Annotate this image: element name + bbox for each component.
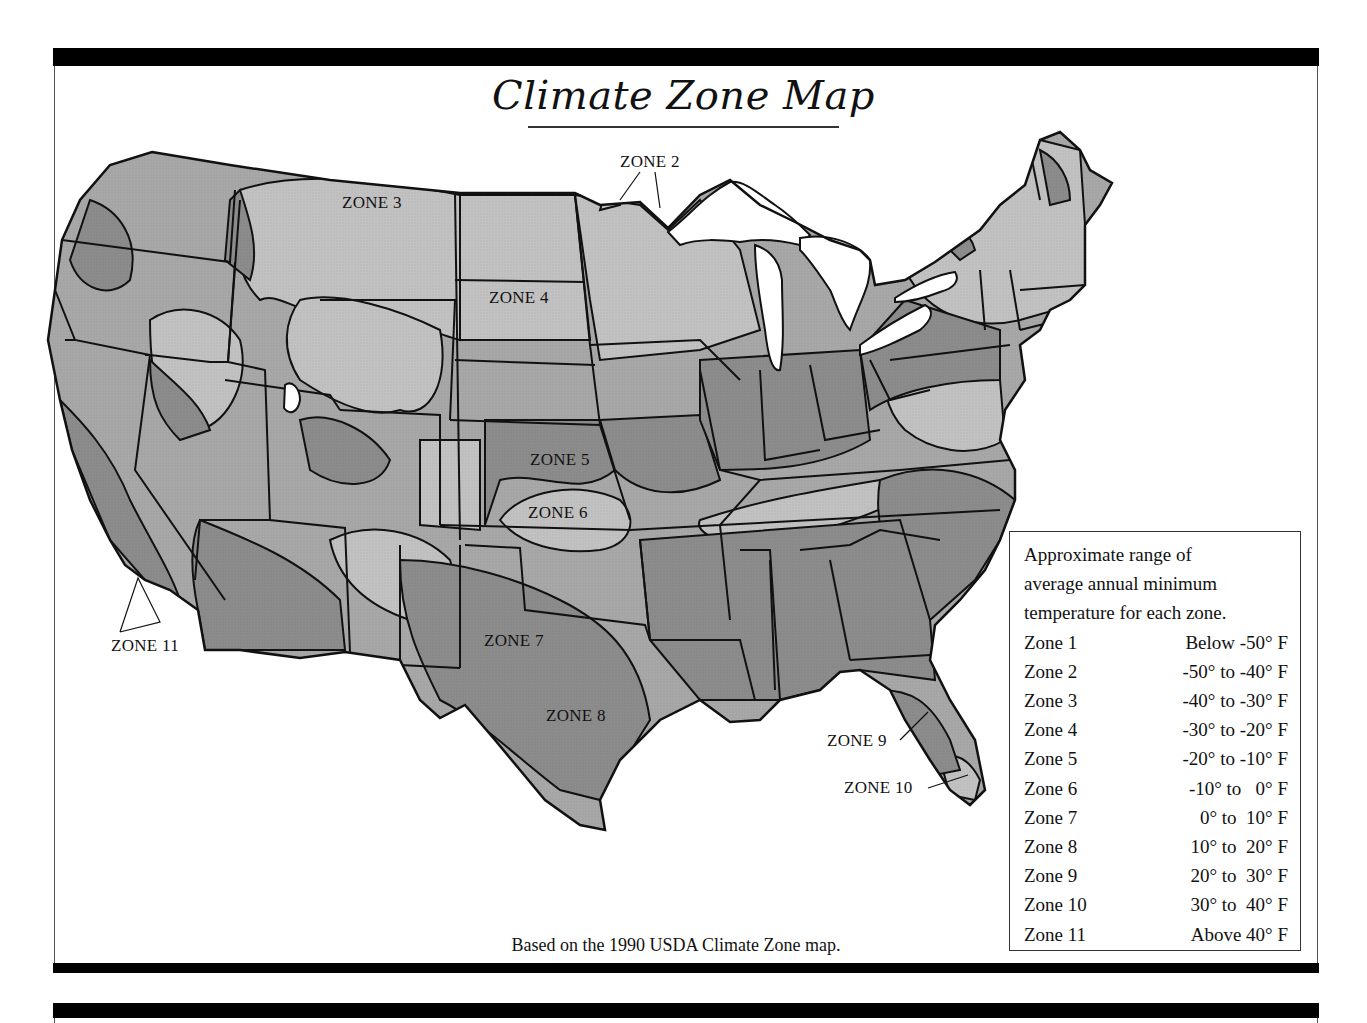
legend-range: 0° to 10° F: [1200, 803, 1288, 832]
leader-zone-2: [620, 172, 640, 200]
label-zone-5: ZONE 5: [530, 450, 590, 469]
legend-row: Zone 5-20° to -10° F: [1024, 744, 1288, 773]
label-zone-2: ZONE 2: [620, 152, 680, 171]
legend-zone: Zone 5: [1024, 744, 1077, 773]
label-zone-10: ZONE 10: [844, 778, 913, 797]
legend-zone: Zone 4: [1024, 715, 1077, 744]
label-zone-4: ZONE 4: [489, 288, 549, 307]
legend-row: Zone 920° to 30° F: [1024, 861, 1288, 890]
legend-row: Zone 1Below -50° F: [1024, 628, 1288, 657]
great-salt-lake: [284, 383, 300, 412]
legend-intro-line: Approximate range of: [1024, 540, 1288, 569]
legend-intro-line: average annual minimum: [1024, 569, 1288, 598]
legend-range: -10° to 0° F: [1189, 774, 1288, 803]
legend-range: -50° to -40° F: [1183, 657, 1288, 686]
label-zone-11: ZONE 11: [111, 636, 179, 655]
label-zone-7: ZONE 7: [484, 631, 544, 650]
legend-range: 10° to 20° F: [1190, 832, 1288, 861]
source-caption: Based on the 1990 USDA Climate Zone map.: [0, 935, 1352, 956]
legend-range: 30° to 40° F: [1190, 890, 1288, 919]
legend-row: Zone 3-40° to -30° F: [1024, 686, 1288, 715]
zone-legend: Approximate range of average annual mini…: [1009, 531, 1301, 951]
legend-range: -40° to -30° F: [1183, 686, 1288, 715]
label-zone-9: ZONE 9: [827, 731, 887, 750]
legend-range: 20° to 30° F: [1190, 861, 1288, 890]
legend-zone: Zone 2: [1024, 657, 1077, 686]
legend-zone: Zone 1: [1024, 628, 1077, 657]
legend-range: -20° to -10° F: [1183, 744, 1288, 773]
legend-zone: Zone 9: [1024, 861, 1077, 890]
legend-row: Zone 2-50° to -40° F: [1024, 657, 1288, 686]
lake-superior: [668, 182, 810, 245]
legend-zone: Zone 10: [1024, 890, 1087, 919]
label-zone-6: ZONE 6: [528, 503, 588, 522]
legend-range: Below -50° F: [1185, 628, 1288, 657]
legend-row: Zone 1030° to 40° F: [1024, 890, 1288, 919]
legend-zone: Zone 8: [1024, 832, 1077, 861]
legend-row: Zone 4-30° to -20° F: [1024, 715, 1288, 744]
legend-zone: Zone 7: [1024, 803, 1077, 832]
leader-zone-11: [120, 578, 160, 632]
legend-row: Zone 70° to 10° F: [1024, 803, 1288, 832]
legend-intro: Approximate range of average annual mini…: [1024, 540, 1288, 628]
legend-zone: Zone 3: [1024, 686, 1077, 715]
label-zone-8: ZONE 8: [546, 706, 606, 725]
legend-intro-line: temperature for each zone.: [1024, 598, 1288, 627]
label-zone-3: ZONE 3: [342, 193, 402, 212]
legend-row: Zone 810° to 20° F: [1024, 832, 1288, 861]
legend-row: Zone 6-10° to 0° F: [1024, 774, 1288, 803]
legend-zone: Zone 6: [1024, 774, 1077, 803]
legend-range: -30° to -20° F: [1183, 715, 1288, 744]
